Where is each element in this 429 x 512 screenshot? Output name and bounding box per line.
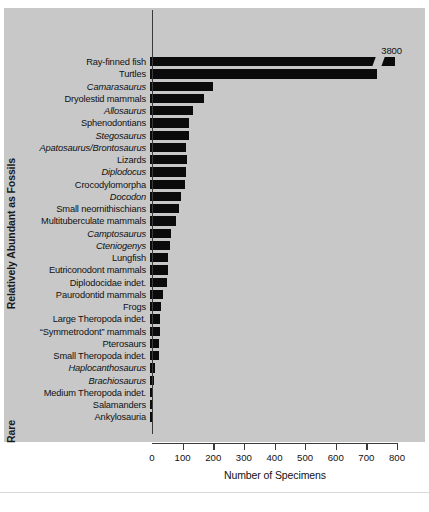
x-axis-tick bbox=[183, 444, 184, 450]
bar-row: Eutriconodont mammals bbox=[0, 264, 429, 276]
bar bbox=[150, 57, 395, 66]
chart-page: Relatively Abundant as Fossils Rare Ray-… bbox=[0, 0, 429, 512]
bar-row: Frogs bbox=[0, 301, 429, 313]
bar-track: 3800 bbox=[150, 56, 429, 68]
x-axis-tick-label: 0 bbox=[149, 452, 154, 463]
bar bbox=[150, 192, 181, 201]
bar-track bbox=[150, 105, 429, 117]
bar-category-label: Large Theropoda indet. bbox=[0, 314, 150, 324]
bar-track bbox=[150, 179, 429, 191]
bar-row: Pterosaurs bbox=[0, 338, 429, 350]
bar-track bbox=[150, 289, 429, 301]
x-axis-tick-label: 300 bbox=[236, 452, 252, 463]
bar-row: Paurodontid mammals bbox=[0, 289, 429, 301]
bar bbox=[150, 94, 204, 103]
bar-row: Diplodocus bbox=[0, 166, 429, 178]
bar bbox=[150, 167, 186, 176]
bar-category-label: Frogs bbox=[0, 302, 150, 312]
bar-track bbox=[150, 68, 429, 80]
bar-row: Salamanders bbox=[0, 399, 429, 411]
bar-category-label: Ray-finned fish bbox=[0, 57, 150, 67]
bar bbox=[150, 69, 377, 78]
bar-row: Dryolestid mammals bbox=[0, 93, 429, 105]
bar-category-label: Docodon bbox=[0, 192, 150, 202]
x-axis-tick-label: 700 bbox=[358, 452, 374, 463]
bar-row: Cteniogenys bbox=[0, 240, 429, 252]
x-axis-tick bbox=[305, 444, 306, 450]
bar-value-label: 3800 bbox=[381, 45, 402, 56]
bar-row: Lungfish bbox=[0, 252, 429, 264]
bar-row: Allosaurus bbox=[0, 105, 429, 117]
bar-track bbox=[150, 203, 429, 215]
bar-track bbox=[150, 399, 429, 411]
x-axis-tick-label: 500 bbox=[297, 452, 313, 463]
bar-track bbox=[150, 215, 429, 227]
bar bbox=[150, 131, 189, 140]
bar-row: Stegosaurus bbox=[0, 130, 429, 142]
bar bbox=[150, 143, 186, 152]
bar-row: Camarasaurus bbox=[0, 81, 429, 93]
bar bbox=[150, 204, 179, 213]
bar-row: Turtles bbox=[0, 68, 429, 80]
bar-track bbox=[150, 240, 429, 252]
bar-category-label: Pterosaurs bbox=[0, 339, 150, 349]
bar-track bbox=[150, 350, 429, 362]
bar-category-label: Apatosaurus/Brontosaurus bbox=[0, 143, 150, 153]
bar-track bbox=[150, 313, 429, 325]
bar-row: Docodon bbox=[0, 191, 429, 203]
x-axis-tick bbox=[213, 444, 214, 450]
bar bbox=[150, 118, 189, 127]
bar bbox=[150, 216, 176, 225]
bar-row: “Symmetrodont” mammals bbox=[0, 326, 429, 338]
bar-category-label: Salamanders bbox=[0, 400, 150, 410]
bar-category-label: “Symmetrodont” mammals bbox=[0, 327, 150, 337]
footer-rule bbox=[0, 492, 429, 493]
bar-track bbox=[150, 142, 429, 154]
bar-row: Brachiosaurus bbox=[0, 375, 429, 387]
bar-category-label: Allosaurus bbox=[0, 106, 150, 116]
x-axis-tick-label: 800 bbox=[389, 452, 405, 463]
bar-category-label: Stegosaurus bbox=[0, 131, 150, 141]
bar-category-label: Crocodylomorpha bbox=[0, 180, 150, 190]
x-axis-tick bbox=[336, 444, 337, 450]
bar-category-label: Dryolestid mammals bbox=[0, 94, 150, 104]
bar-row: Multituberculate mammals bbox=[0, 215, 429, 227]
bar-row: Camptosaurus bbox=[0, 228, 429, 240]
bar-category-label: Haplocanthosaurus bbox=[0, 363, 150, 373]
bar-category-label: Brachiosaurus bbox=[0, 376, 150, 386]
bar-row: Diplodocidae indet. bbox=[0, 277, 429, 289]
x-axis-tick-label: 100 bbox=[175, 452, 191, 463]
bar-track bbox=[150, 81, 429, 93]
bar-track bbox=[150, 326, 429, 338]
x-axis-title: Number of Specimens bbox=[152, 469, 398, 481]
bar-track bbox=[150, 277, 429, 289]
bar-category-label: Multituberculate mammals bbox=[0, 216, 150, 226]
bar-category-label: Medium Theropoda indet. bbox=[0, 388, 150, 398]
bar bbox=[150, 106, 193, 115]
bar-rows: Ray-finned fish3800TurtlesCamarasaurusDr… bbox=[0, 56, 429, 424]
bar-category-label: Cteniogenys bbox=[0, 241, 150, 251]
x-axis-tick bbox=[244, 444, 245, 450]
bar-category-label: Camarasaurus bbox=[0, 82, 150, 92]
bar-row: Ray-finned fish3800 bbox=[0, 56, 429, 68]
x-axis-tick bbox=[275, 444, 276, 450]
bar-track bbox=[150, 301, 429, 313]
bar-track bbox=[150, 338, 429, 350]
bar-track bbox=[150, 117, 429, 129]
bar-track bbox=[150, 362, 429, 374]
x-axis-tick bbox=[366, 444, 367, 450]
y-axis-line bbox=[152, 10, 153, 434]
x-axis-tick-label: 400 bbox=[266, 452, 282, 463]
bar-category-label: Small Theropoda indet. bbox=[0, 351, 150, 361]
bar-category-label: Diplodocus bbox=[0, 167, 150, 177]
bar-category-label: Diplodocidae indet. bbox=[0, 278, 150, 288]
bar-category-label: Camptosaurus bbox=[0, 229, 150, 239]
bar-row: Small Theropoda indet. bbox=[0, 350, 429, 362]
bar-category-label: Ankylosauria bbox=[0, 412, 150, 422]
bar bbox=[150, 82, 213, 91]
bar-track bbox=[150, 264, 429, 276]
bar-row: Sphenodontians bbox=[0, 117, 429, 129]
bar-category-label: Lizards bbox=[0, 155, 150, 165]
bar bbox=[150, 180, 185, 189]
bar-row: Small neornithischians bbox=[0, 203, 429, 215]
